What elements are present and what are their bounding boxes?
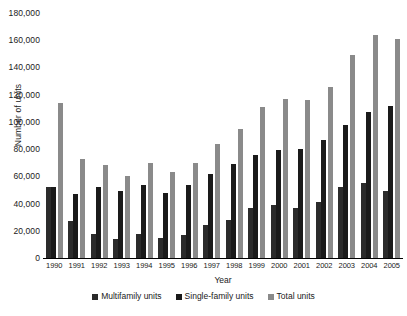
- bar-totalunits-2001: [305, 100, 310, 258]
- y-axis-tick: 0: [0, 254, 40, 263]
- bar-totalunits-2002: [328, 87, 333, 259]
- legend-item[interactable]: Multifamily units: [92, 292, 161, 301]
- bar-singlefamilyunits-2003: [343, 125, 348, 258]
- bar-group: [358, 13, 381, 258]
- x-axis-tick-1991: 1991: [66, 261, 89, 270]
- legend-label: Total units: [277, 292, 315, 301]
- bar-group: [43, 13, 66, 258]
- bar-group: [246, 13, 269, 258]
- bar-group: [88, 13, 111, 258]
- bar-singlefamilyunits-2002: [321, 140, 326, 258]
- y-axis-tick: 40,000: [0, 200, 40, 209]
- bar-totalunits-1997: [215, 144, 220, 258]
- bar-group: [336, 13, 359, 258]
- bar-singlefamilyunits-1994: [141, 185, 146, 259]
- y-axis-tick: 20,000: [0, 227, 40, 236]
- x-axis-tick-2004: 2004: [358, 261, 381, 270]
- x-axis-tick-1992: 1992: [88, 261, 111, 270]
- x-axis-tick-labels: 1990199119921993199419951996199719981999…: [43, 261, 403, 270]
- x-axis-tick-2002: 2002: [313, 261, 336, 270]
- x-axis-tick-1996: 1996: [178, 261, 201, 270]
- bar-group: [133, 13, 156, 258]
- bar-group: [156, 13, 179, 258]
- bar-totalunits-2000: [283, 99, 288, 258]
- bar-singlefamilyunits-1999: [253, 155, 258, 258]
- bar-totalunits-1990: [58, 103, 63, 258]
- legend-label: Single-family units: [185, 292, 254, 301]
- bar-group: [111, 13, 134, 258]
- y-axis-tick: 180,000: [0, 9, 40, 18]
- legend-swatch-icon: [176, 294, 182, 300]
- chart-legend: Multifamily unitsSingle-family unitsTota…: [0, 292, 407, 301]
- x-axis-tick-1993: 1993: [111, 261, 134, 270]
- y-axis-tick-labels: 180,000160,000140,000120,000100,00080,00…: [0, 0, 40, 316]
- x-axis-tick-1999: 1999: [246, 261, 269, 270]
- bar-totalunits-2005: [395, 39, 400, 258]
- x-axis-tick-1997: 1997: [201, 261, 224, 270]
- x-axis-tick-2001: 2001: [291, 261, 314, 270]
- bar-totalunits-1998: [238, 129, 243, 258]
- y-axis-tick: 160,000: [0, 36, 40, 45]
- bar-group: [201, 13, 224, 258]
- bar-singlefamilyunits-1991: [73, 194, 78, 258]
- bar-group: [223, 13, 246, 258]
- bar-totalunits-1999: [260, 107, 265, 258]
- x-axis-line: [43, 258, 403, 259]
- bar-group: [313, 13, 336, 258]
- bar-totalunits-1996: [193, 163, 198, 258]
- bar-singlefamilyunits-2004: [366, 112, 371, 258]
- legend-item[interactable]: Single-family units: [176, 292, 254, 301]
- bar-group: [268, 13, 291, 258]
- x-axis-tick-1995: 1995: [156, 261, 179, 270]
- bar-group: [178, 13, 201, 258]
- x-axis-title: Year: [43, 275, 403, 285]
- x-axis-tick-2005: 2005: [381, 261, 404, 270]
- bar-singlefamilyunits-1993: [118, 191, 123, 258]
- bar-singlefamilyunits-1992: [96, 187, 101, 258]
- bar-singlefamilyunits-2000: [276, 150, 281, 258]
- bar-group: [66, 13, 89, 258]
- y-axis-tick: 140,000: [0, 63, 40, 72]
- legend-label: Multifamily units: [101, 292, 161, 301]
- y-axis-tick: 80,000: [0, 145, 40, 154]
- x-axis-tick-1990: 1990: [43, 261, 66, 270]
- bar-totalunits-1992: [103, 165, 108, 258]
- bar-singlefamilyunits-1997: [208, 174, 213, 258]
- bar-totalunits-1995: [170, 172, 175, 258]
- legend-swatch-icon: [268, 294, 274, 300]
- bar-totalunits-1991: [80, 159, 85, 258]
- chart-container: Number of units 180,000160,000140,000120…: [0, 0, 407, 316]
- x-axis-tick-1994: 1994: [133, 261, 156, 270]
- bar-singlefamilyunits-1998: [231, 164, 236, 258]
- bar-totalunits-1993: [125, 176, 130, 258]
- x-axis-tick-1998: 1998: [223, 261, 246, 270]
- bar-singlefamilyunits-1995: [163, 193, 168, 258]
- bar-singlefamilyunits-2005: [388, 106, 393, 258]
- bar-groups: [43, 13, 403, 258]
- bar-singlefamilyunits-1996: [186, 185, 191, 259]
- x-axis-tick-2003: 2003: [336, 261, 359, 270]
- legend-swatch-icon: [92, 294, 98, 300]
- y-axis-tick: 100,000: [0, 118, 40, 127]
- bar-singlefamilyunits-1990: [51, 187, 56, 258]
- bar-totalunits-2004: [373, 35, 378, 258]
- bar-singlefamilyunits-2001: [298, 149, 303, 258]
- legend-item[interactable]: Total units: [268, 292, 315, 301]
- x-axis-tick-2000: 2000: [268, 261, 291, 270]
- bar-group: [381, 13, 404, 258]
- bar-totalunits-1994: [148, 163, 153, 258]
- y-axis-tick: 120,000: [0, 91, 40, 100]
- bar-totalunits-2003: [350, 55, 355, 258]
- y-axis-tick: 60,000: [0, 172, 40, 181]
- bar-group: [291, 13, 314, 258]
